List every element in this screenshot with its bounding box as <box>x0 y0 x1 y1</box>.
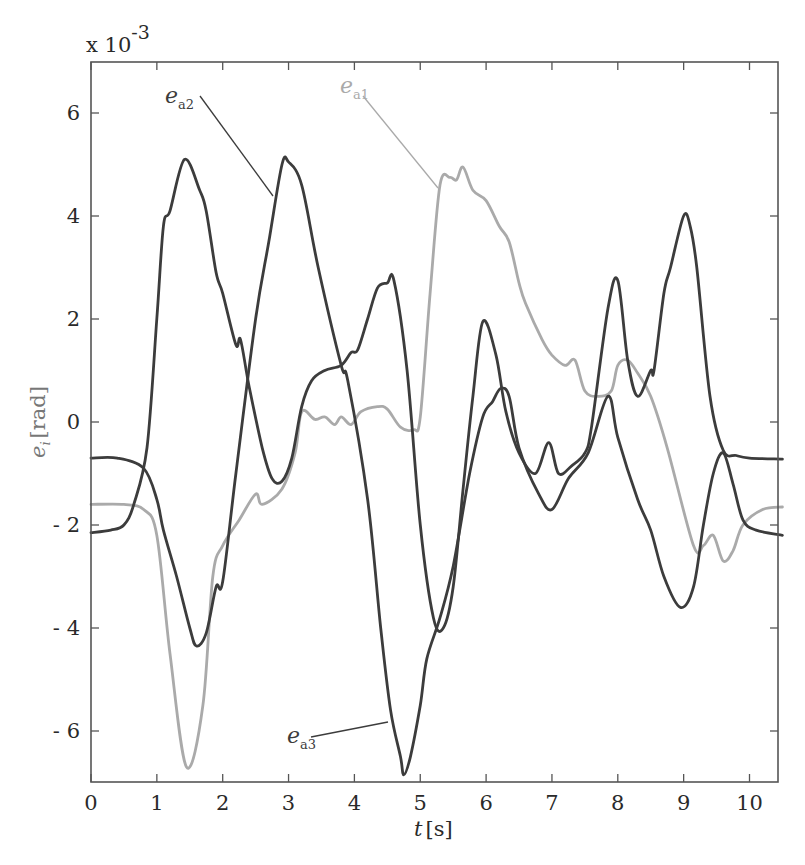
x-tick-label: 7 <box>545 791 558 815</box>
x-axis-label: t[s] <box>414 817 453 841</box>
y-tick-label: 2 <box>67 307 80 331</box>
y-tick-label: - 6 <box>53 719 80 743</box>
y-tick-label: - 2 <box>53 513 80 537</box>
line-chart: ea2ea1ea3 012345678910 - 6- 4- 20246 x 1… <box>0 0 805 865</box>
y-axis-label: ei[rad] <box>26 386 53 458</box>
x-axis-unit: [s] <box>425 817 452 841</box>
y-axis-unit: [rad] <box>26 386 50 438</box>
y-multiplier-base: x 10 <box>86 33 131 57</box>
y-axis-variable: e <box>26 446 50 458</box>
x-tick-label: 10 <box>736 791 763 815</box>
x-tick-label: 4 <box>348 791 361 815</box>
chart-background <box>0 0 805 865</box>
x-tick-label: 2 <box>216 791 229 815</box>
y-multiplier-exponent: -3 <box>131 21 150 43</box>
y-tick-label: 6 <box>67 101 80 125</box>
x-tick-label: 6 <box>479 791 492 815</box>
x-tick-label: 0 <box>84 791 97 815</box>
x-tick-label: 9 <box>677 791 690 815</box>
y-tick-label: - 4 <box>53 616 80 640</box>
x-axis-variable: t <box>414 817 423 841</box>
y-tick-label: 0 <box>67 410 80 434</box>
x-tick-label: 5 <box>414 791 427 815</box>
x-tick-label: 8 <box>611 791 624 815</box>
x-tick-label: 1 <box>150 791 163 815</box>
y-tick-label: 4 <box>67 204 80 228</box>
y-axis-subscript: i <box>38 441 53 445</box>
x-tick-label: 3 <box>282 791 295 815</box>
